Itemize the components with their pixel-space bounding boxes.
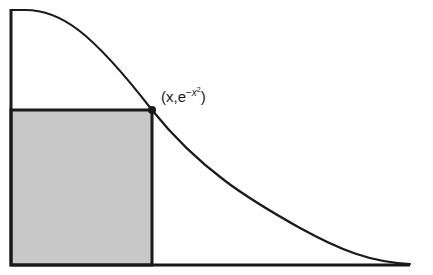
exponent: −x2 bbox=[186, 87, 201, 98]
point-label-close: ) bbox=[201, 88, 206, 105]
gaussian-diagram bbox=[0, 0, 433, 275]
point-label-open: (x,e bbox=[161, 88, 186, 105]
point-label: (x,e−x2) bbox=[161, 89, 206, 104]
point-marker bbox=[148, 106, 156, 114]
shaded-rectangle bbox=[11, 110, 152, 265]
